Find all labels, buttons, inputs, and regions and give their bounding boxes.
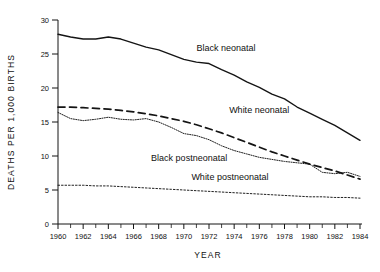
x-tick-label: 1976 (251, 232, 268, 241)
series-annotations-group: Black neonatalWhite neonatalBlack postne… (151, 43, 289, 182)
y-tick-label: 25 (41, 50, 49, 59)
x-tick-label: 1974 (226, 232, 243, 241)
x-tick-label: 1960 (50, 232, 67, 241)
y-axis-ticks: 051015202530 (41, 16, 58, 229)
x-tick-label: 1972 (201, 232, 218, 241)
x-tick-label: 1964 (100, 232, 117, 241)
y-tick-label: 15 (41, 118, 49, 127)
y-tick-label: 5 (45, 186, 49, 195)
x-axis-ticks: 1960196219641966196819701972197419761978… (50, 224, 369, 241)
series-line-2 (58, 112, 360, 176)
x-tick-label: 1978 (276, 232, 293, 241)
x-tick-label: 1982 (326, 232, 343, 241)
y-axis-title: DEATHS PER 1,000 BIRTHS (6, 54, 16, 190)
x-tick-label: 1980 (301, 232, 318, 241)
y-tick-label: 20 (41, 84, 49, 93)
series-label-2: Black postneonatal (151, 153, 227, 163)
series-label-1: White neonatal (229, 105, 289, 115)
x-tick-label: 1984 (352, 232, 369, 241)
chart-figure: 051015202530 196019621964196619681970197… (0, 0, 380, 272)
x-tick-label: 1970 (175, 232, 192, 241)
series-label-3: White postneonatal (191, 172, 268, 182)
x-tick-label: 1968 (150, 232, 167, 241)
x-tick-label: 1962 (75, 232, 92, 241)
series-line-3 (58, 185, 360, 198)
series-label-0: Black neonatal (196, 43, 255, 53)
y-tick-label: 30 (41, 16, 49, 25)
line-chart-svg: 051015202530 196019621964196619681970197… (0, 0, 380, 272)
y-tick-label: 0 (45, 220, 49, 229)
x-axis-title: YEAR (194, 250, 222, 260)
x-tick-label: 1966 (125, 232, 142, 241)
y-tick-label: 10 (41, 152, 49, 161)
